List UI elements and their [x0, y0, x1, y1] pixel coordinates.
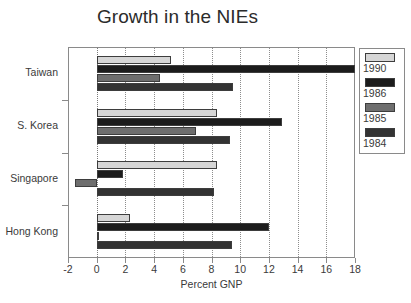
y-tick-3: [62, 205, 68, 206]
bar-taiwan-1985: [97, 74, 160, 82]
x-tick-label-4: 4: [139, 263, 169, 275]
legend-swatch-1990: [365, 53, 395, 62]
category-label-singapore: Singapore: [10, 172, 58, 184]
gridline-14: [298, 48, 299, 257]
x-tick-label-0: 0: [82, 263, 112, 275]
chart-title: Growth in the NIEs: [0, 6, 355, 28]
bar-hong-kong-1985: [97, 232, 99, 240]
gridline-16: [326, 48, 327, 257]
bar-singapore-1986: [97, 170, 123, 178]
x-tick-label-12: 12: [254, 263, 284, 275]
bar-s-korea-1985: [97, 127, 196, 135]
legend-label-1984: 1984: [363, 137, 405, 149]
bar-hong-kong-1986: [97, 223, 269, 231]
legend-swatch-1984: [365, 128, 395, 137]
x-tick-label-14: 14: [283, 263, 313, 275]
bar-s-korea-1984: [97, 136, 230, 144]
legend-item-1990[interactable]: 1990: [360, 52, 404, 77]
legend-label-1986: 1986: [363, 87, 405, 99]
x-tick-label-16: 16: [311, 263, 341, 275]
x-tick-label-10: 10: [225, 263, 255, 275]
bar-taiwan-1986: [97, 65, 355, 73]
chart-container: Growth in the NIEs TaiwanS. KoreaSingapo…: [0, 0, 411, 303]
category-label-s-korea: S. Korea: [17, 119, 58, 131]
x-tick-label-8: 8: [197, 263, 227, 275]
bar-singapore-1984: [97, 188, 215, 196]
legend-item-1985[interactable]: 1985: [360, 102, 404, 127]
bar-taiwan-1984: [97, 83, 233, 91]
y-tick-2: [62, 153, 68, 154]
legend-item-1984[interactable]: 1984: [360, 127, 404, 152]
bar-s-korea-1990: [97, 109, 218, 117]
bar-s-korea-1986: [97, 118, 282, 126]
x-tick-label--2: -2: [53, 263, 83, 275]
gridline-12: [269, 48, 270, 257]
bar-taiwan-1990: [97, 56, 172, 64]
x-tick-label-2: 2: [110, 263, 140, 275]
legend-label-1985: 1985: [363, 112, 405, 124]
legend-swatch-1986: [365, 78, 395, 87]
legend-item-1986[interactable]: 1986: [360, 77, 404, 102]
x-tick-label-18: 18: [340, 263, 370, 275]
x-axis-title: Percent GNP: [68, 278, 355, 290]
y-tick-1: [62, 100, 68, 101]
bar-hong-kong-1990: [97, 214, 130, 222]
legend: 1990198619851984: [359, 48, 405, 154]
category-label-hong-kong: Hong Kong: [5, 225, 58, 237]
bar-singapore-1990: [97, 161, 218, 169]
bar-singapore-1985: [75, 179, 97, 187]
category-label-taiwan: Taiwan: [25, 66, 58, 78]
legend-label-1990: 1990: [363, 62, 405, 74]
legend-swatch-1985: [365, 103, 395, 112]
x-tick-label-6: 6: [168, 263, 198, 275]
bar-hong-kong-1984: [97, 241, 232, 249]
